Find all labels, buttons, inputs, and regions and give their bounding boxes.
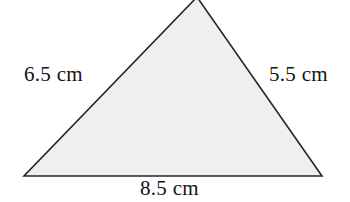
triangle-polygon [24,0,322,176]
triangle-shape [0,0,350,202]
label-right-side: 5.5 cm [269,64,328,85]
label-left-side: 6.5 cm [24,64,83,85]
geometry-figure: 6.5 cm 5.5 cm 8.5 cm [0,0,350,202]
label-bottom-side: 8.5 cm [140,178,199,199]
